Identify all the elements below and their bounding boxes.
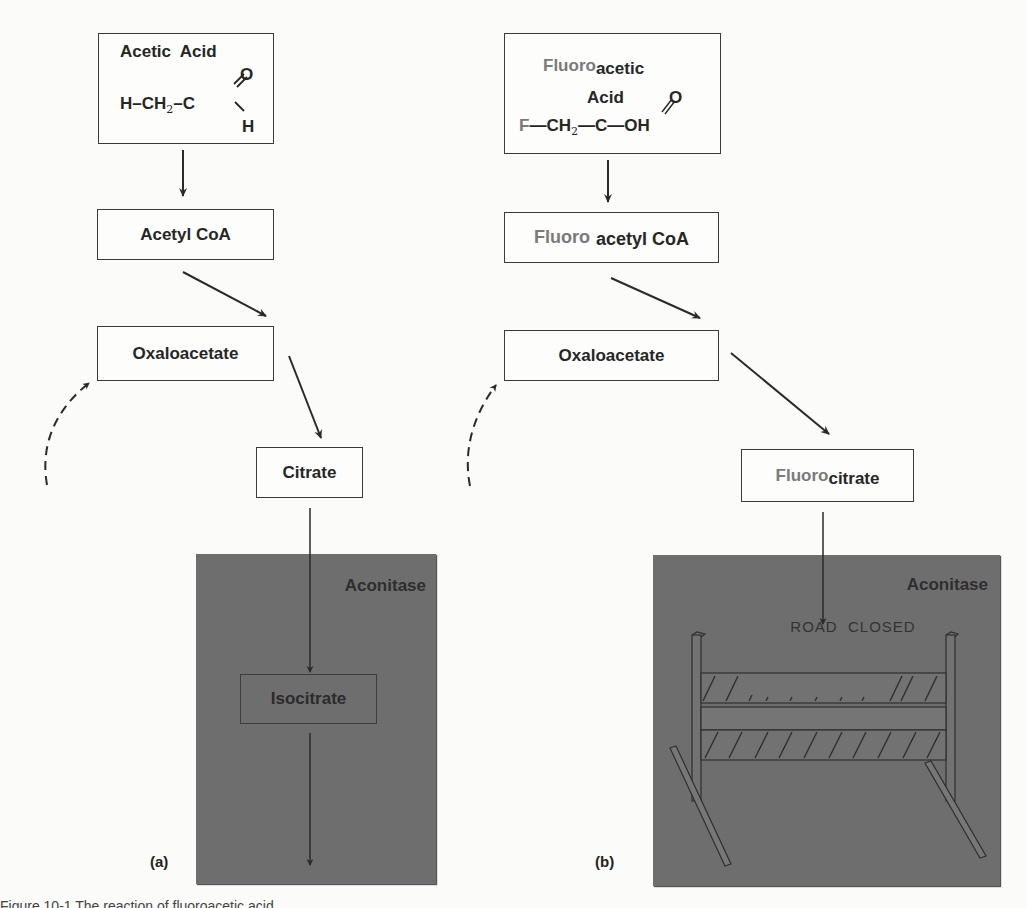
arrows-b xyxy=(468,160,829,486)
dashed-cycle-arrow-a xyxy=(45,383,89,485)
panel-b-tag: (b) xyxy=(595,853,614,870)
dashed-cycle-arrow-b xyxy=(468,385,496,486)
arrow-fluoroacetylcoa-to-oxaloacetate xyxy=(611,278,700,318)
oxaloacetate-box-b: Oxaloacetate xyxy=(504,330,719,381)
acetic-suffix: acetic xyxy=(596,59,644,78)
fluoroacetic-oxygen: O xyxy=(669,88,682,108)
road-closed-sign: ROAD CLOSED xyxy=(753,618,953,635)
arrows-a xyxy=(45,150,321,485)
acetyl-coa-label: Acetyl CoA xyxy=(140,225,231,245)
fluorocitrate-box: Fluorocitrate xyxy=(741,449,914,502)
aconitase-panel-b: Aconitase ROAD CLOSED xyxy=(653,555,1000,886)
fluoroacetic-acid-box: Fluoroacetic Acid O F—CH2—C—OH xyxy=(504,33,721,154)
fluorocitrate-suffix: citrate xyxy=(828,469,879,489)
arrow-oxaloacetate-to-citrate xyxy=(289,356,321,438)
arrow-oxaloacetate-to-fluorocitrate xyxy=(731,353,829,434)
acetic-acid-formula: H–CH2–C xyxy=(120,94,195,116)
oxaloacetate-label-a: Oxaloacetate xyxy=(133,344,239,364)
aconitase-label-a: Aconitase xyxy=(345,576,426,596)
acetic-acid-oxygen: O xyxy=(240,65,253,85)
fluorocitrate-prefix: Fluoro xyxy=(776,466,829,486)
aconitase-panel-a: Aconitase Isocitrate xyxy=(196,554,436,884)
fluoroacetyl-prefix: Fluoro xyxy=(534,227,590,248)
fluoroacetyl-coa-box: Fluoro acetyl CoA xyxy=(504,212,719,263)
oxaloacetate-box-a: Oxaloacetate xyxy=(97,326,274,381)
fluoroacetic-title: Fluoroacetic xyxy=(543,56,644,76)
isocitrate-label: Isocitrate xyxy=(271,689,347,709)
acetyl-coa-box: Acetyl CoA xyxy=(97,209,274,260)
oxaloacetate-label-b: Oxaloacetate xyxy=(559,346,665,366)
panel-a-tag: (a) xyxy=(150,853,168,870)
isocitrate-box: Isocitrate xyxy=(240,674,377,724)
aconitase-label-b: Aconitase xyxy=(907,575,988,595)
arrow-acetylcoa-to-oxaloacetate xyxy=(183,272,266,316)
fluoroacetic-formula: F—CH2—C—OH xyxy=(519,116,650,138)
citrate-box: Citrate xyxy=(256,447,363,498)
citrate-label: Citrate xyxy=(283,463,337,483)
fluoroacetic-title-line2: Acid xyxy=(587,88,624,108)
figure-caption: Figure 10-1 The reaction of fluoroacetic… xyxy=(0,898,1027,908)
fluoro-prefix: Fluoro xyxy=(543,56,596,75)
fluoroacetyl-suffix: acetyl CoA xyxy=(596,229,689,250)
acetic-acid-hydrogen: H xyxy=(242,117,254,137)
acetic-acid-box: Acetic Acid H–CH2–C O H xyxy=(98,33,274,144)
acetic-acid-title: Acetic Acid xyxy=(120,42,217,62)
